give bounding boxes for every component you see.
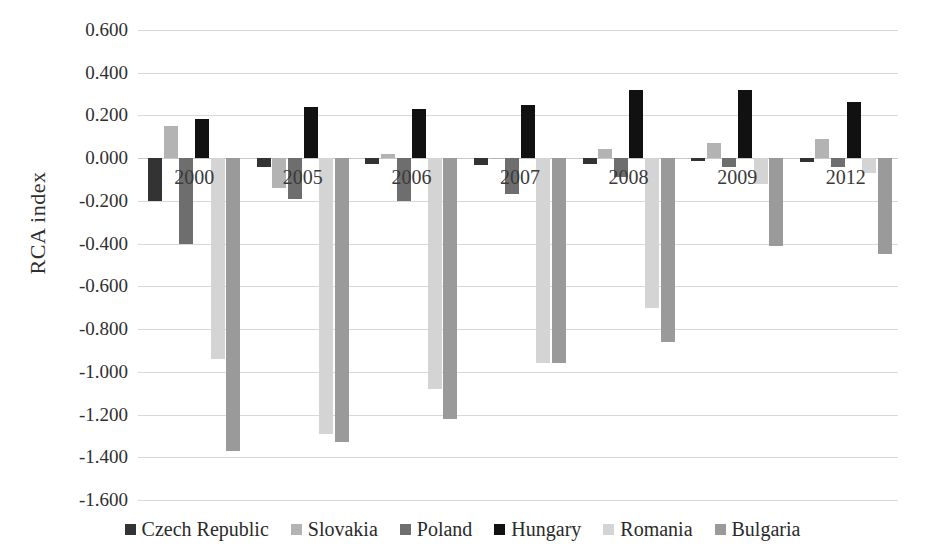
legend-label: Poland — [417, 518, 473, 541]
gridline — [138, 286, 898, 287]
gridline — [138, 457, 898, 458]
gridline — [138, 30, 898, 31]
legend-item[interactable]: Czech Republic — [125, 518, 269, 541]
y-axis-tick-label: -0.200 — [79, 190, 128, 212]
bar — [211, 158, 225, 359]
bar — [878, 158, 892, 254]
bar — [319, 158, 333, 434]
legend-item[interactable]: Poland — [400, 518, 473, 541]
y-axis-tick-label: -0.400 — [79, 233, 128, 255]
bar — [335, 158, 349, 442]
y-axis-tick-label: -1.600 — [79, 489, 128, 511]
legend-item[interactable]: Romania — [603, 518, 692, 541]
bar — [645, 158, 659, 308]
gridline — [138, 115, 898, 116]
bar — [661, 158, 675, 342]
bar — [847, 102, 861, 159]
legend-label: Slovakia — [308, 518, 378, 541]
bar — [629, 90, 643, 158]
bar — [583, 158, 597, 163]
legend-item[interactable]: Bulgaria — [715, 518, 801, 541]
gridline — [138, 329, 898, 330]
rca-index-bar-chart: RCA index 0.6000.4000.2000.000-0.200-0.4… — [0, 0, 925, 559]
legend-item[interactable]: Slovakia — [291, 518, 378, 541]
bar — [428, 158, 442, 389]
bar — [272, 158, 286, 188]
bar — [800, 158, 814, 162]
bar — [148, 158, 162, 201]
bar — [365, 158, 379, 163]
gridline — [138, 73, 898, 74]
y-axis-tick-label: -0.600 — [79, 275, 128, 297]
bar — [707, 143, 721, 158]
gridline — [138, 372, 898, 373]
bar — [691, 158, 705, 161]
bar — [288, 158, 302, 199]
legend-item[interactable]: Hungary — [494, 518, 581, 541]
legend-label: Hungary — [511, 518, 581, 541]
bar — [474, 158, 488, 164]
bar — [598, 149, 612, 159]
plot-area: 0.6000.4000.2000.000-0.200-0.400-0.600-0… — [138, 30, 898, 500]
legend-label: Romania — [620, 518, 692, 541]
y-axis-tick-label: 0.400 — [85, 62, 128, 84]
bar — [536, 158, 550, 363]
y-axis-tick-label: -0.800 — [79, 318, 128, 340]
y-axis-tick-label: -1.200 — [79, 404, 128, 426]
y-axis-tick-label: 0.200 — [85, 104, 128, 126]
bar — [381, 154, 395, 158]
bar — [862, 158, 876, 173]
bar — [769, 158, 783, 246]
legend-swatch-icon — [494, 524, 505, 535]
bar — [738, 90, 752, 158]
bar — [226, 158, 240, 451]
y-axis-tick-label: -1.400 — [79, 446, 128, 468]
bar — [257, 158, 271, 167]
bar — [412, 109, 426, 158]
y-axis-title: RCA index — [25, 123, 51, 323]
bar — [521, 105, 535, 158]
gridline — [138, 244, 898, 245]
legend-swatch-icon — [400, 524, 411, 535]
bar — [505, 158, 519, 194]
gridline — [138, 201, 898, 202]
bar — [754, 158, 768, 184]
y-axis-tick-label: 0.600 — [85, 19, 128, 41]
bar — [614, 158, 628, 177]
bar — [815, 139, 829, 158]
legend-label: Czech Republic — [142, 518, 269, 541]
bar — [443, 158, 457, 419]
legend-swatch-icon — [603, 524, 614, 535]
gridline — [138, 500, 898, 501]
legend-swatch-icon — [291, 524, 302, 535]
bar — [397, 158, 411, 201]
legend-swatch-icon — [125, 524, 136, 535]
bar — [831, 158, 845, 167]
y-axis-tick-label: 0.000 — [85, 147, 128, 169]
bar — [179, 158, 193, 243]
gridline — [138, 415, 898, 416]
legend-label: Bulgaria — [732, 518, 801, 541]
bar — [722, 158, 736, 167]
bar — [304, 107, 318, 158]
bar — [195, 119, 209, 159]
bar — [164, 126, 178, 158]
x-axis-category-label: 2009 — [717, 166, 757, 189]
legend-swatch-icon — [715, 524, 726, 535]
y-axis-tick-label: -1.000 — [79, 361, 128, 383]
bar — [552, 158, 566, 363]
bar — [490, 158, 504, 159]
chart-legend: Czech RepublicSlovakiaPolandHungaryRoman… — [0, 518, 925, 541]
x-axis-category-label: 2012 — [826, 166, 866, 189]
